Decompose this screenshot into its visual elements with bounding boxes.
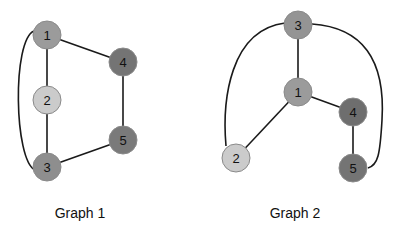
node-1: 1 (284, 78, 312, 106)
svg-text:3: 3 (294, 18, 301, 33)
node-4: 4 (339, 98, 367, 126)
svg-text:1: 1 (43, 28, 50, 43)
edge-1-3-curved (18, 31, 35, 170)
node-2: 2 (33, 86, 61, 114)
svg-text:5: 5 (349, 161, 356, 176)
svg-text:2: 2 (43, 93, 50, 108)
graph-2-label: Graph 2 (270, 205, 321, 221)
edge-3-5-curved (312, 24, 382, 168)
node-4: 4 (109, 48, 137, 76)
svg-text:1: 1 (294, 85, 301, 100)
node-1: 1 (33, 21, 61, 49)
svg-text:4: 4 (349, 105, 356, 120)
node-3: 3 (284, 11, 312, 39)
node-5: 5 (109, 126, 137, 154)
edge-3-2-curved (225, 23, 285, 146)
graph-2-nodes: 3 1 4 2 5 (222, 11, 367, 182)
svg-text:2: 2 (232, 151, 239, 166)
node-5: 5 (339, 154, 367, 182)
node-2: 2 (222, 144, 250, 172)
svg-text:4: 4 (119, 55, 126, 70)
graph-1-nodes: 1 2 3 4 5 (33, 21, 137, 181)
svg-text:5: 5 (119, 133, 126, 148)
node-3: 3 (33, 153, 61, 181)
graph-diagram: 1 2 3 4 5 3 1 4 (0, 0, 398, 238)
graph-1-label: Graph 1 (55, 205, 106, 221)
svg-text:3: 3 (43, 160, 50, 175)
